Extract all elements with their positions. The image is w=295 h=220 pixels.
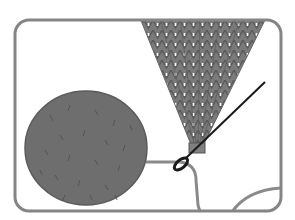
pompom [25,91,147,205]
needle-eye-loop [172,156,189,172]
pompom-illustration [0,0,295,220]
knit-hat-tip [140,18,266,153]
yarn-strand [146,162,282,215]
